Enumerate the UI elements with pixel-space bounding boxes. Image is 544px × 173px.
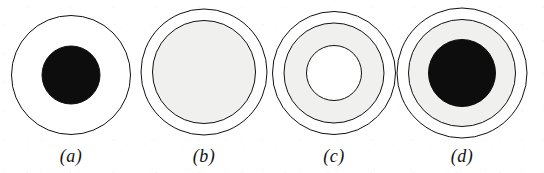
panel-label-b: (b) xyxy=(164,147,244,165)
circle-group-d xyxy=(397,8,528,139)
circle-group-c xyxy=(272,11,396,135)
black-core-d xyxy=(428,39,496,107)
figure-concentric-circles: (a)(b)(c)(d) xyxy=(0,0,544,173)
gray-inner-disc-b xyxy=(152,20,256,124)
circle-group-b xyxy=(141,9,268,136)
black-core-a xyxy=(42,46,101,105)
white-core-c xyxy=(306,45,362,101)
panel-label-d: (d) xyxy=(422,147,502,165)
panel-label-c: (c) xyxy=(294,147,374,165)
circle-group-a xyxy=(11,15,131,135)
panel-label-a: (a) xyxy=(31,147,111,165)
